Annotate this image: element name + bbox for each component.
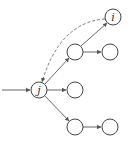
edge-a-to-i [81, 23, 107, 46]
node-a [67, 44, 83, 60]
node-d [67, 119, 83, 135]
node-c [67, 82, 83, 98]
tree-diagram: j i [0, 0, 130, 144]
node-b [102, 44, 118, 60]
node-j: j [31, 82, 47, 98]
edge-j-to-a [45, 58, 69, 84]
node-i: i [105, 9, 121, 25]
edge-j-to-d [45, 96, 69, 121]
node-e [102, 119, 118, 135]
node-i-label: i [111, 11, 115, 24]
